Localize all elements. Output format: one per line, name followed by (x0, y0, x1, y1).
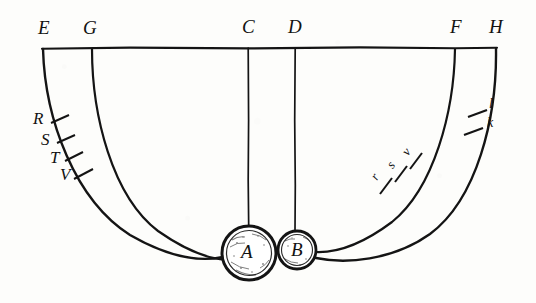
arc-E-to-A (43, 49, 223, 259)
arc-F-to-B (315, 49, 455, 252)
label-bob-B: B (291, 240, 303, 259)
label-point-E: E (38, 18, 50, 37)
tick-mark-r (380, 178, 392, 194)
label-tick-S: S (41, 131, 50, 148)
label-point-C: C (242, 17, 255, 36)
label-point-D: D (288, 17, 302, 36)
label-bob-A: A (241, 242, 253, 261)
label-tick-R: R (33, 110, 43, 127)
baseline-group (42, 47, 497, 48)
right-outer-tick-marks-group (464, 110, 487, 135)
tick-mark-l (468, 110, 487, 117)
horizontal-baseline (42, 47, 497, 48)
pendulum-diagram-figure: E G C D F H R S T V l k r s v A B (0, 0, 536, 303)
label-tick-T: T (50, 149, 59, 166)
cord-C-to-A (248, 48, 249, 227)
cord-D-to-B (295, 48, 296, 232)
vertical-cords-group (248, 48, 295, 232)
label-tick-k: k (487, 116, 493, 130)
label-point-H: H (489, 17, 503, 36)
label-point-F: F (450, 17, 462, 36)
arc-group (43, 49, 496, 261)
arc-G-to-A (92, 49, 227, 260)
label-tick-V: V (60, 166, 70, 183)
tick-mark-k (464, 128, 483, 135)
diagram-canvas (0, 0, 536, 303)
label-point-G: G (83, 18, 97, 37)
label-tick-l: l (489, 97, 493, 111)
